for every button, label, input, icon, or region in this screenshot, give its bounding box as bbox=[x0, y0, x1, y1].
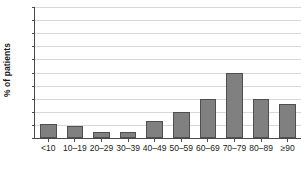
bar-slot bbox=[195, 7, 222, 138]
x-tick-mark bbox=[234, 138, 235, 142]
bar bbox=[67, 126, 83, 138]
x-tick-slot bbox=[221, 138, 248, 142]
bar-slot bbox=[248, 7, 275, 138]
x-tick-mark bbox=[261, 138, 262, 142]
x-tick-mark bbox=[207, 138, 208, 142]
x-tick-mark bbox=[48, 138, 49, 142]
bar bbox=[146, 121, 162, 138]
bar bbox=[226, 73, 242, 139]
x-tick-slot bbox=[35, 138, 62, 142]
x-tick-slot bbox=[141, 138, 168, 142]
bar bbox=[200, 99, 216, 138]
x-axis-ticks bbox=[35, 138, 301, 142]
x-tick-label: 80–89 bbox=[248, 144, 275, 153]
bar bbox=[279, 104, 295, 138]
x-tick-mark bbox=[154, 138, 155, 142]
x-tick-mark bbox=[101, 138, 102, 142]
x-tick-slot bbox=[274, 138, 301, 142]
bar-slot bbox=[35, 7, 62, 138]
bar-slot bbox=[168, 7, 195, 138]
bar-slot bbox=[115, 7, 142, 138]
bar-slot bbox=[88, 7, 115, 138]
x-tick-mark bbox=[181, 138, 182, 142]
bar-series bbox=[35, 7, 301, 138]
x-tick-slot bbox=[115, 138, 142, 142]
bar-slot bbox=[141, 7, 168, 138]
bar-slot bbox=[62, 7, 89, 138]
x-tick-label: 70–79 bbox=[221, 144, 248, 153]
x-tick-slot bbox=[168, 138, 195, 142]
y-axis-title: % of patients bbox=[0, 0, 14, 140]
x-tick-label: <10 bbox=[35, 144, 62, 153]
x-tick-slot bbox=[62, 138, 89, 142]
x-tick-label: 40–49 bbox=[141, 144, 168, 153]
y-axis-title-text: % of patients bbox=[2, 43, 12, 97]
x-tick-mark bbox=[74, 138, 75, 142]
bar-chart: % of patients 05101520253035404550 <1010… bbox=[0, 0, 305, 170]
x-tick-label: ≥90 bbox=[274, 144, 301, 153]
x-tick-slot bbox=[88, 138, 115, 142]
x-tick-label: 60–69 bbox=[195, 144, 222, 153]
x-tick-label: 50–59 bbox=[168, 144, 195, 153]
x-tick-slot bbox=[248, 138, 275, 142]
x-tick-mark bbox=[287, 138, 288, 142]
bar-slot bbox=[274, 7, 301, 138]
bar bbox=[173, 112, 189, 138]
bar-slot bbox=[221, 7, 248, 138]
x-tick-slot bbox=[195, 138, 222, 142]
x-tick-mark bbox=[128, 138, 129, 142]
x-axis-labels: <1010–1920–2930–3940–4950–5960–6970–7980… bbox=[35, 144, 301, 153]
x-tick-label: 10–19 bbox=[62, 144, 89, 153]
bar bbox=[253, 99, 269, 138]
x-tick-label: 30–39 bbox=[115, 144, 142, 153]
plot-area: 05101520253035404550 bbox=[35, 7, 301, 138]
bar bbox=[40, 124, 56, 138]
x-tick-label: 20–29 bbox=[88, 144, 115, 153]
